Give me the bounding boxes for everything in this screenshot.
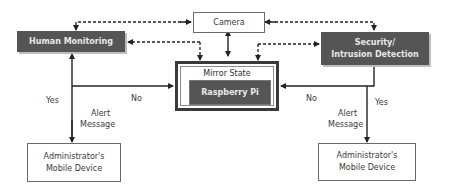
admin-right-line1: Administrator's [337,150,398,162]
security-label-line2: Intrusion Detection [331,49,418,60]
left-yes-label: Yes [46,95,59,106]
human-monitoring-node: Human Monitoring [17,31,125,52]
admin-mobile-right-node: Administrator's Mobile Device [318,143,416,181]
mirror-state-node: Mirror State Raspberry Pi [175,61,279,111]
left-alert-line2: Message [80,119,115,130]
admin-mobile-left-node: Administrator's Mobile Device [27,143,121,182]
right-no-label: No [306,93,317,104]
right-alert-line1: Alert [328,108,363,119]
right-alert-line2: Message [328,119,363,130]
admin-left-line2: Mobile Device [46,163,102,175]
mirror-state-label: Mirror State [178,69,276,78]
admin-left-line1: Administrator's [44,151,105,163]
left-alert-label: Alert Message [80,108,115,130]
raspberry-pi-label: Raspberry Pi [201,87,259,98]
admin-right-line2: Mobile Device [339,162,395,174]
security-intrusion-node: Security/ Intrusion Detection [321,32,429,65]
camera-node: Camera [193,12,265,33]
camera-label: Camera [213,17,244,29]
security-label-line1: Security/ [355,37,395,48]
right-yes-label: Yes [375,97,388,108]
raspberry-pi-node: Raspberry Pi [189,80,271,105]
left-no-label: No [131,93,142,104]
right-alert-label: Alert Message [328,108,363,130]
human-monitoring-label: Human Monitoring [29,36,113,47]
left-alert-line1: Alert [80,108,115,119]
